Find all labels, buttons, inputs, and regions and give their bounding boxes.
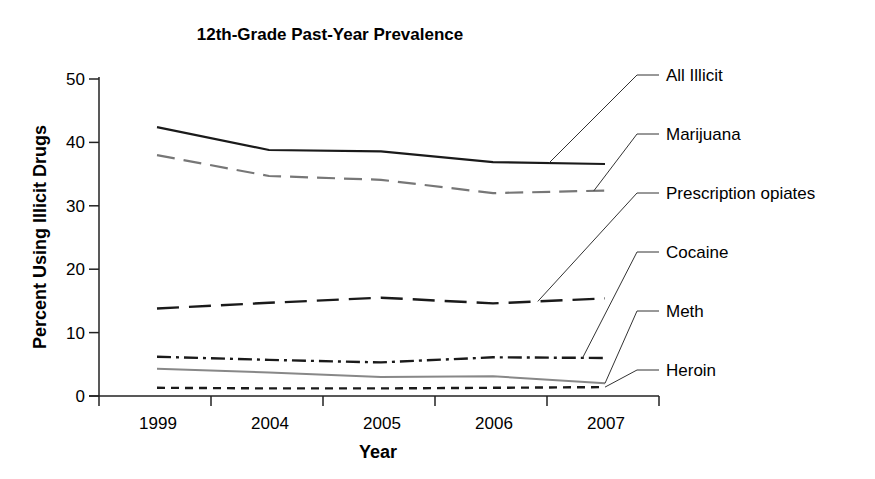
series-layer [157,127,605,388]
x-tick-label: 2004 [251,414,289,433]
chart-title: 12th-Grade Past-Year Prevalence [197,25,463,44]
line-chart: 12th-Grade Past-Year Prevalence Percent … [0,0,875,479]
y-tick-label: 40 [66,133,85,152]
y-axis-label: Percent Using Illicit Drugs [30,125,50,349]
legend-leader-line [583,252,659,358]
y-tick-label: 10 [66,324,85,343]
legend-label-marijuana: Marijuana [666,125,741,144]
y-tick-label: 30 [66,197,85,216]
legend-leader-line [594,134,659,191]
y-tick-label: 20 [66,260,85,279]
series-line-heroin [157,387,605,388]
legend-label-prescription-opiates: Prescription opiates [666,184,815,203]
series-line-cocaine [157,357,605,363]
x-tick-label: 2007 [587,414,625,433]
x-tick-label: 2005 [363,414,401,433]
x-tick-label: 2006 [475,414,513,433]
legend-leader-line [538,193,659,301]
axes: 0102030405019992004200520062007 [66,70,659,433]
series-line-prescription-opiates [157,298,605,309]
series-line-marijuana [157,155,605,193]
series-line-meth [157,369,605,384]
legend-label-heroin: Heroin [666,361,716,380]
legend-label-cocaine: Cocaine [666,243,728,262]
y-tick-label: 0 [76,387,85,406]
legend-label-all-illicit: All Illicit [666,66,723,85]
legend-label-meth: Meth [666,302,704,321]
x-axis-label: Year [359,442,397,462]
series-line-all-illicit [157,127,605,164]
legend: All IllicitMarijuanaPrescription opiates… [538,66,816,387]
x-tick-label: 1999 [139,414,177,433]
legend-leader-line [549,75,659,163]
y-tick-label: 50 [66,70,85,89]
legend-leader-line [605,370,659,387]
